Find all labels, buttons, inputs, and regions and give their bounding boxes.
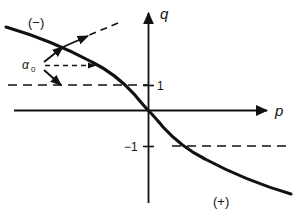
positive-branch-label: (+) [213, 194, 229, 209]
x-axis-label: p [274, 102, 283, 119]
negative-branch-label: (−) [28, 15, 44, 30]
parameter-label-symbol: α [22, 58, 30, 72]
plot-background [0, 0, 304, 218]
y-axis-label: q [160, 5, 169, 22]
figure-container: q p 1 −1 (−) (+) α 0 [0, 0, 304, 218]
tick-label-plus-one: 1 [157, 79, 164, 93]
parameter-label-subscript: 0 [31, 65, 36, 74]
tick-label-minus-one: −1 [124, 140, 138, 154]
pq-plot-svg: q p 1 −1 (−) (+) α 0 [0, 0, 304, 218]
